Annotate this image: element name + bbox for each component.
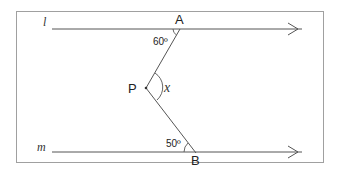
point-P-dot [145,87,148,90]
line-l-label: l [43,15,47,29]
point-A-label: A [175,12,184,27]
angle-B-label: 50º [166,138,181,149]
point-B-label: B [191,153,200,168]
angle-A-label: 60º [153,36,168,47]
geometry-diagram: l m A B P 60º 50º x [0,0,340,176]
line-m-label: m [37,140,46,154]
angle-arc-P [155,73,163,100]
angle-P-label: x [163,80,171,95]
angle-arc-B [184,143,188,152]
angle-arc-A [173,29,177,35]
point-P-label: P [128,81,137,96]
